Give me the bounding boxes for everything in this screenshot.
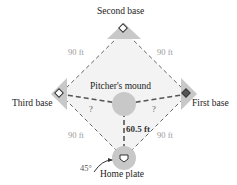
pitchers-mound <box>112 92 136 116</box>
dist-second-third: 90 ft <box>68 48 84 57</box>
dist-second-first: 90 ft <box>157 48 173 57</box>
dist-mound-home: 60.5 ft <box>126 125 150 134</box>
dist-home-third: 90 ft <box>68 131 84 140</box>
third-base-label: Third base <box>12 99 52 109</box>
first-base-label: First base <box>192 99 229 109</box>
home-plate-label: Home plate <box>100 170 144 180</box>
second-base-label: Second base <box>97 7 144 17</box>
diamond-drawing <box>0 0 237 185</box>
angle-label: 45° <box>80 164 92 173</box>
dist-mound-third: ? <box>89 105 93 114</box>
pitchers-mound-label: Pitcher's mound <box>90 82 151 92</box>
dist-home-first: 90 ft <box>157 131 173 140</box>
dist-mound-first: ? <box>152 105 156 114</box>
